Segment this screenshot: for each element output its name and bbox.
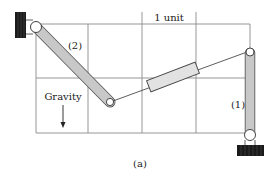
right-bottom-pivot-joint [245, 130, 256, 141]
figure-caption: (a) [133, 158, 147, 169]
gravity-label: Gravity [44, 91, 82, 102]
unit-label: 1 unit [154, 12, 184, 23]
link-2-label: (2) [68, 40, 82, 51]
unit-grid [36, 12, 250, 133]
arrow-down-icon [61, 105, 66, 128]
mechanism-diagram: 1 unit (2) (1) Gravity [0, 0, 279, 179]
right-top-joint [246, 48, 254, 56]
left-pivot-joint [31, 22, 42, 33]
left-wall-anchor [15, 12, 26, 38]
link-1-label: (1) [231, 99, 245, 110]
link2-end-joint [106, 98, 113, 105]
slider-box [147, 62, 200, 92]
